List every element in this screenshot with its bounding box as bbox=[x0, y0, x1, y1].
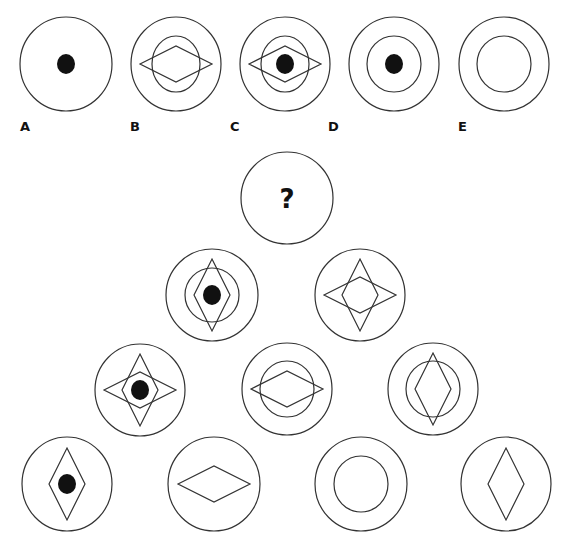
option-figure-b bbox=[131, 17, 221, 111]
outer-circle bbox=[131, 17, 221, 111]
inner-circle bbox=[477, 36, 531, 92]
option-label-c: C bbox=[230, 120, 240, 133]
inner-circle bbox=[406, 361, 460, 417]
outer-circle bbox=[242, 343, 332, 435]
pyramid-cell-r4-c2 bbox=[168, 437, 260, 531]
vertical-diamond bbox=[488, 448, 524, 520]
inner-circle bbox=[334, 456, 388, 512]
pyramid-cell-r3-c1 bbox=[95, 344, 185, 436]
option-label-d: D bbox=[328, 120, 339, 133]
black-dot bbox=[203, 285, 221, 305]
option-figure-c bbox=[240, 17, 330, 111]
outer-circle bbox=[459, 17, 549, 111]
black-dot bbox=[131, 380, 149, 400]
horizontal-diamond bbox=[251, 371, 323, 407]
option-label-b: B bbox=[130, 120, 140, 133]
option-figure-e bbox=[459, 17, 549, 111]
pyramid-cell-r4-c3 bbox=[315, 437, 407, 531]
pyramid-cell-r4-c4 bbox=[461, 437, 551, 531]
puzzle-figures bbox=[0, 0, 578, 547]
vertical-diamond bbox=[342, 259, 378, 331]
pyramid-cell-r2-c1 bbox=[166, 249, 258, 341]
horizontal-diamond bbox=[324, 277, 396, 313]
pyramid-cell-r3-c3 bbox=[388, 343, 478, 435]
outer-circle bbox=[315, 249, 405, 341]
option-label-e: E bbox=[458, 120, 467, 133]
pyramid-cell-r2-c2 bbox=[315, 249, 405, 341]
horizontal-diamond bbox=[178, 466, 250, 502]
inner-circle bbox=[152, 36, 200, 92]
black-dot bbox=[385, 54, 403, 74]
inner-circle bbox=[260, 361, 314, 417]
outer-circle bbox=[315, 437, 407, 531]
horizontal-diamond bbox=[140, 46, 212, 82]
black-dot bbox=[58, 474, 76, 494]
option-figure-a bbox=[20, 17, 112, 111]
pyramid-cell-r3-c2 bbox=[242, 343, 332, 435]
puzzle-canvas: A B C D E ? bbox=[0, 0, 578, 547]
outer-circle bbox=[461, 437, 551, 531]
outer-circle bbox=[388, 343, 478, 435]
black-dot bbox=[276, 54, 294, 74]
black-dot bbox=[57, 54, 75, 74]
pyramid-cell-r4-c1 bbox=[22, 437, 112, 531]
option-figure-d bbox=[349, 17, 439, 111]
option-label-a: A bbox=[20, 120, 30, 133]
outer-circle bbox=[168, 437, 260, 531]
question-mark: ? bbox=[279, 186, 294, 212]
